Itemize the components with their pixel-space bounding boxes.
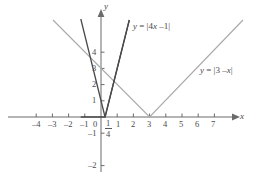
x-tick-label-1: 1 bbox=[116, 120, 120, 129]
y-tick-label-1: 1 bbox=[92, 96, 96, 105]
curve-label-abs-3-minus-x: y = |3 –x| bbox=[200, 66, 232, 75]
x-axis-label: x bbox=[240, 112, 244, 121]
y-tick-label-2: 2 bbox=[92, 80, 96, 89]
curve-abs-4x-minus-1-stroke bbox=[81, 19, 130, 117]
y-tick-label-4: 4 bbox=[92, 48, 96, 57]
x-tick-label-neg4: –4 bbox=[32, 120, 41, 129]
curve-abs-4x-minus-1 bbox=[81, 20, 130, 117]
x-tick-label-2: 2 bbox=[131, 120, 135, 129]
x-tick-label-5: 5 bbox=[179, 120, 183, 129]
absolute-value-graph-figure: x y –4 –3 –2 –1 0 1 2 3 4 5 6 7 1 4 4 3 … bbox=[0, 0, 257, 181]
x-tick-label-4: 4 bbox=[163, 120, 167, 129]
curve-label-abs-4x-minus-1: y = |4x –1| bbox=[133, 22, 170, 31]
y-tick-label-neg2: –2 bbox=[88, 161, 97, 170]
x-tick-label-one-quarter: 1 4 bbox=[103, 119, 113, 139]
x-tick-label-neg2: –2 bbox=[64, 120, 73, 129]
x-axis-ticks bbox=[36, 114, 214, 118]
y-tick-label-3: 3 bbox=[92, 64, 96, 73]
fraction-denominator: 4 bbox=[103, 130, 113, 139]
fraction-numerator: 1 bbox=[103, 119, 113, 128]
y-tick-label-neg1: –1 bbox=[88, 129, 97, 138]
x-tick-label-6: 6 bbox=[195, 120, 199, 129]
x-tick-label-3: 3 bbox=[147, 120, 151, 129]
x-tick-label-neg3: –3 bbox=[48, 120, 57, 129]
x-axis-arrow bbox=[232, 114, 240, 121]
x-tick-label-7: 7 bbox=[211, 120, 215, 129]
y-axis-label: y bbox=[104, 2, 108, 11]
graph-canvas bbox=[0, 0, 257, 181]
